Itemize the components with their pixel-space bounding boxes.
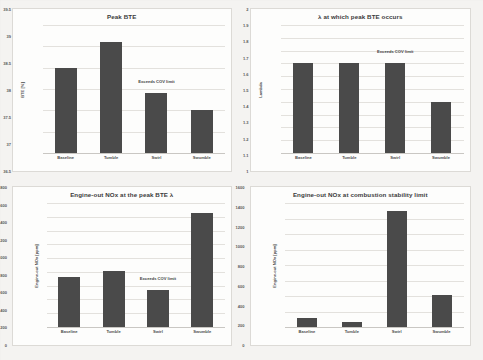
- gridline: [43, 153, 225, 154]
- y-tick-label: 1.1: [243, 152, 249, 157]
- y-tick-label: 1.7: [243, 55, 249, 60]
- plot-region: Exceeds COV limit: [281, 25, 465, 153]
- bar-series: [47, 203, 225, 327]
- y-tick-label: 200: [0, 325, 7, 330]
- bar-swirl: [145, 93, 167, 153]
- bar-slot: [372, 25, 418, 153]
- bar-series: [285, 203, 465, 327]
- x-tick-label: Baseline: [281, 155, 327, 165]
- y-tick-label: 1: [246, 169, 248, 174]
- y-tick-label: 1.5: [243, 88, 249, 93]
- x-tick-label: Swirl: [136, 329, 180, 339]
- bar-slot: [419, 203, 464, 327]
- y-tick-label: 1.4: [243, 104, 249, 109]
- bar-swumble: [431, 102, 451, 153]
- chart-panel-lambda: λ at which peak BTE occurs Lambda 21.91.…: [242, 0, 483, 180]
- bar-swirl: [385, 63, 405, 153]
- y-tick-label: 1800: [0, 185, 7, 190]
- chart-panel-nox-peak-bte: Engine-out NOx at the peak BTE λ Engine-…: [0, 180, 242, 360]
- plot-wrapper: Lambda 21.91.81.71.61.51.41.31.21.11 Exc…: [251, 9, 471, 171]
- y-tick-label: 400: [0, 307, 7, 312]
- y-tick-label: 0: [242, 343, 244, 348]
- bar-slot: [281, 25, 327, 153]
- bar-slot: [326, 25, 372, 153]
- bar-tumble: [339, 63, 359, 153]
- y-tick-label: 1600: [0, 202, 7, 207]
- y-tick-label: 1.6: [243, 71, 249, 76]
- bar-swumble: [191, 213, 213, 327]
- x-tick-label: Tumble: [326, 155, 372, 165]
- annotation-exceeds-cov-limit: Exceeds COV limit: [140, 276, 176, 281]
- plot-region: Exceeds COV limit: [43, 25, 225, 153]
- y-tick-label: 39.5: [3, 7, 11, 12]
- x-tick-label: Swirl: [372, 155, 418, 165]
- x-tick-label: Swumble: [419, 329, 464, 339]
- y-tick-label: 2: [246, 7, 248, 12]
- y-tick-label: 1600: [236, 185, 245, 190]
- y-tick-label: 36.5: [3, 169, 11, 174]
- x-tick-label: Tumble: [88, 155, 133, 165]
- y-axis-ticks: 180016001400120010008006004002000: [13, 187, 43, 345]
- gridline: [281, 153, 465, 154]
- x-tick-label: Swirl: [374, 329, 419, 339]
- y-tick-label: 1000: [236, 244, 245, 249]
- y-tick-label: 800: [238, 264, 245, 269]
- x-tick-label: Swumble: [179, 155, 224, 165]
- bar-slot: [285, 203, 330, 327]
- y-tick-label: 600: [0, 290, 7, 295]
- y-tick-label: 37: [7, 142, 11, 147]
- x-tick-label: Tumble: [91, 329, 135, 339]
- bar-tumble: [342, 322, 362, 327]
- y-tick-label: 400: [238, 303, 245, 308]
- y-tick-label: 1.2: [243, 136, 249, 141]
- x-tick-label: Swirl: [134, 155, 179, 165]
- y-axis-ticks: 39.53938.53837.53736.5: [13, 9, 43, 171]
- bar-slot: [180, 203, 224, 327]
- y-tick-label: 1000: [0, 255, 7, 260]
- bar-swirl: [147, 290, 169, 327]
- x-tick-label: Swumble: [418, 155, 464, 165]
- plot-wrapper: Engine-out NOx [ppm] 1800160014001200100…: [13, 187, 231, 345]
- plot-region: [285, 203, 465, 327]
- y-tick-label: 38.5: [3, 61, 11, 66]
- x-axis-labels: BaselineTumbleSwirlSwumble: [47, 329, 225, 339]
- y-tick-label: 600: [238, 283, 245, 288]
- plot-wrapper: Engine-out NOx [ppm] 1600140012001000800…: [251, 187, 471, 345]
- x-tick-label: Tumble: [329, 329, 374, 339]
- bar-slot: [418, 25, 464, 153]
- plot-wrapper: BTE [%] 39.53938.53837.53736.5 Exceeds C…: [13, 9, 231, 171]
- y-tick-label: 1200: [0, 237, 7, 242]
- y-axis-ticks: 21.91.81.71.61.51.41.31.21.11: [251, 9, 281, 171]
- chart-area: Engine-out NOx at the peak BTE λ Engine-…: [12, 186, 232, 346]
- x-axis-labels: BaselineTumbleSwirlSwumble: [285, 329, 465, 339]
- plot-region: Exceeds COV limit: [47, 203, 225, 327]
- bar-swirl: [387, 211, 407, 327]
- bar-slot: [136, 203, 180, 327]
- y-tick-label: 1400: [0, 220, 7, 225]
- slide-background: Peak BTE BTE [%] 39.53938.53837.53736.5 …: [0, 0, 483, 360]
- y-tick-label: 39: [7, 34, 11, 39]
- chart-area: Engine-out NOx at combustion stability l…: [250, 186, 472, 346]
- y-axis-ticks: 16001400120010008006004002000: [251, 187, 281, 345]
- chart-panel-peak-bte: Peak BTE BTE [%] 39.53938.53837.53736.5 …: [0, 0, 242, 180]
- bar-swumble: [191, 110, 213, 153]
- y-tick-label: 1.8: [243, 39, 249, 44]
- y-tick-label: 200: [238, 323, 245, 328]
- x-axis-labels: BaselineTumbleSwirlSwumble: [43, 155, 225, 165]
- bar-tumble: [103, 271, 125, 327]
- bar-slot: [179, 25, 224, 153]
- bar-slot: [47, 203, 91, 327]
- y-tick-label: 1.9: [243, 23, 249, 28]
- chart-area: Peak BTE BTE [%] 39.53938.53837.53736.5 …: [12, 8, 232, 172]
- y-tick-label: 1200: [236, 224, 245, 229]
- bar-slot: [88, 25, 133, 153]
- bar-baseline: [293, 63, 313, 153]
- y-tick-label: 800: [0, 272, 7, 277]
- bar-tumble: [100, 42, 122, 153]
- bar-series: [43, 25, 225, 153]
- y-tick-label: 0: [5, 343, 7, 348]
- gridline: [47, 327, 225, 328]
- bar-slot: [329, 203, 374, 327]
- y-tick-label: 37.5: [3, 115, 11, 120]
- bar-slot: [91, 203, 135, 327]
